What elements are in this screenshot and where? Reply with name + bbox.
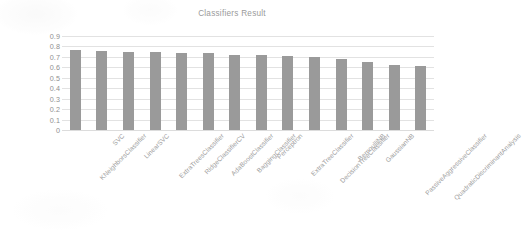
- gridline: [62, 36, 434, 37]
- gridline: [62, 120, 434, 121]
- bar: [176, 53, 187, 130]
- gridline: [62, 67, 434, 68]
- bar: [150, 52, 161, 130]
- bar: [309, 57, 320, 130]
- bar: [203, 53, 214, 130]
- x-axis-tick-label: BernoulliNB: [356, 132, 386, 162]
- x-axis: KNeighborsClassifierSVCLinearSVCExtraTre…: [62, 132, 434, 232]
- bar: [362, 62, 373, 130]
- y-axis-tick-label: 0.9: [50, 32, 60, 41]
- y-axis-tick-label: 0.5: [50, 73, 60, 82]
- bar: [229, 55, 240, 130]
- y-axis-tick-label: 0.4: [50, 84, 60, 93]
- gridline: [62, 99, 434, 100]
- bar: [389, 65, 400, 130]
- x-axis-tick-label: QuadraticDiscriminantAnalysis: [452, 132, 521, 201]
- y-axis-tick-label: 0.3: [50, 94, 60, 103]
- bar: [336, 59, 347, 130]
- gridline: [62, 46, 434, 47]
- gridline: [62, 109, 434, 110]
- x-axis-tick-label: SVC: [111, 132, 126, 147]
- bar: [123, 52, 134, 130]
- chart-title: Classifiers Result: [0, 9, 464, 18]
- bar: [415, 66, 426, 130]
- y-axis-tick-label: 0.7: [50, 52, 60, 61]
- plot-area: [62, 36, 434, 130]
- bar: [96, 51, 107, 130]
- y-axis: 0.90.80.70.60.50.40.30.20.10: [36, 36, 60, 130]
- y-axis-tick-label: 0.6: [50, 63, 60, 72]
- bar: [256, 55, 267, 130]
- bar: [70, 50, 81, 130]
- y-axis-tick-label: 0.1: [50, 115, 60, 124]
- x-axis-tick-label: PassiveAggressiveClassifier: [424, 132, 488, 196]
- y-axis-tick-label: 0: [56, 126, 60, 135]
- gridline: [62, 78, 434, 79]
- gridline: [62, 130, 434, 131]
- gridline: [62, 88, 434, 89]
- y-axis-tick-label: 0.8: [50, 42, 60, 51]
- gridline: [62, 57, 434, 58]
- y-axis-tick-label: 0.2: [50, 105, 60, 114]
- bar: [282, 56, 293, 130]
